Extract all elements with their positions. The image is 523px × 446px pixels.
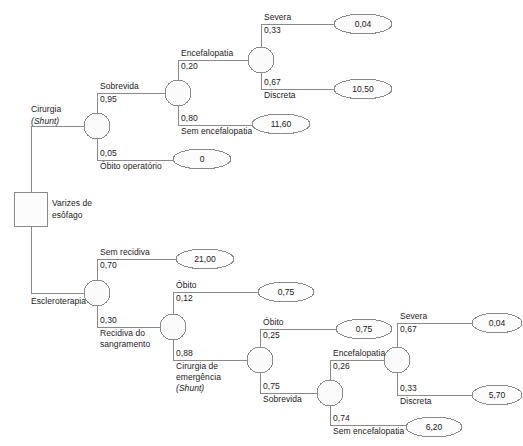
chance-node-encefalopatia	[248, 47, 274, 73]
branch-label-emergencia-line1: Cirurgia de	[176, 361, 218, 371]
prob-obito: 0,12	[176, 293, 193, 303]
prob-obito-operatorio: 0,05	[100, 148, 117, 158]
root-label-line2: esôfago	[52, 210, 83, 220]
chance-node-sobrevida2	[317, 380, 343, 406]
branch-label-discreta-top: Discreta	[264, 90, 296, 100]
payoff-value-sem-encefalopatia-bottom: 6,20	[406, 423, 462, 432]
prob-sem-encefalopatia2: 0,74	[333, 413, 350, 423]
branch-label-sem-encefalopatia: Sem encefalopatia	[181, 126, 252, 136]
prob-discreta-top: 0,67	[264, 77, 281, 87]
prob-cirurgia-emergencia: 0,88	[176, 348, 193, 358]
chance-node-sobrevida	[165, 80, 191, 106]
payoff-value-obito2: 0,75	[336, 325, 392, 334]
prob-obito2: 0,25	[263, 330, 280, 340]
prob-sobrevida2: 0,75	[263, 381, 280, 391]
branch-label-discreta-bottom: Discreta	[400, 396, 432, 406]
prob-severa-top: 0,33	[264, 25, 281, 35]
decision-tree-diagram: Varizes de esôfago Cirurgia (Shunt) Sobr…	[0, 0, 523, 446]
payoff-value-severa-top: 0,04	[334, 20, 392, 29]
branch-label-obito: Óbito	[176, 280, 197, 290]
payoff-value-sem-recidiva: 21,00	[176, 255, 234, 264]
prob-discreta-bottom: 0,33	[400, 383, 417, 393]
chance-node-encefalopatia2	[384, 347, 410, 373]
chance-node-escleroterapia	[84, 280, 110, 306]
prob-encefalopatia2: 0,26	[333, 361, 350, 371]
payoff-value-sem-encefalopatia-top: 11,60	[252, 120, 310, 129]
branch-label-emergencia-line3: (Shunt)	[176, 383, 204, 393]
branch-label-sem-encefalopatia2: Sem encefalopatia	[333, 426, 404, 436]
chance-node-emergencia	[247, 347, 273, 373]
payoff-value-discreta-top: 10,50	[334, 85, 392, 94]
branch-label-sobrevida2: Sobrevida	[263, 394, 302, 404]
branch-label-sobrevida: Sobrevida	[100, 81, 139, 91]
payoff-value-obito: 0,75	[258, 288, 314, 297]
root-node-square	[15, 193, 48, 227]
branch-label-obito-operatorio: Óbito operatório	[100, 161, 162, 171]
chance-node-cirurgia	[84, 113, 110, 139]
edge-root-to-escleroterapia	[31, 226, 84, 293]
branch-label-severa-top: Severa	[264, 12, 291, 22]
branch-label-severa-bottom: Severa	[400, 311, 427, 321]
chance-node-recidiva	[160, 314, 186, 340]
branch-label-encefalopatia: Encefalopatia	[181, 48, 233, 58]
payoff-value-severa-bottom: 0,04	[472, 319, 522, 328]
edge-root-to-cirurgia	[31, 126, 84, 192]
branch-label-recidiva-line2: sangramento	[100, 339, 150, 349]
branch-label-encefalopatia2: Encefalopatia	[333, 348, 385, 358]
tree-edges-and-nodes	[0, 0, 523, 446]
prob-sem-recidiva: 0,70	[100, 260, 117, 270]
branch-label-recidiva-line1: Recidiva do	[100, 328, 145, 338]
prob-sobrevida: 0,95	[100, 94, 117, 104]
branch-label-escleroterapia: Escleroterapia	[31, 296, 86, 306]
branch-label-obito2: Óbito	[263, 317, 284, 327]
branch-label-cirurgia: Cirurgia	[31, 104, 61, 114]
branch-label-emergencia-line2: emergência	[176, 372, 221, 382]
prob-severa-bottom: 0,67	[400, 324, 417, 334]
branch-label-sem-recidiva: Sem recidiva	[100, 247, 150, 257]
root-label-line1: Varizes de	[52, 198, 92, 208]
payoff-value-discreta-bottom: 5,70	[472, 391, 522, 400]
prob-recidiva: 0,30	[100, 315, 117, 325]
branch-label-cirurgia-shunt: (Shunt)	[31, 116, 59, 126]
prob-encefalopatia: 0,20	[181, 61, 198, 71]
prob-sem-encefalopatia: 0,80	[181, 113, 198, 123]
payoff-value-obito-operatorio: 0	[173, 155, 231, 164]
